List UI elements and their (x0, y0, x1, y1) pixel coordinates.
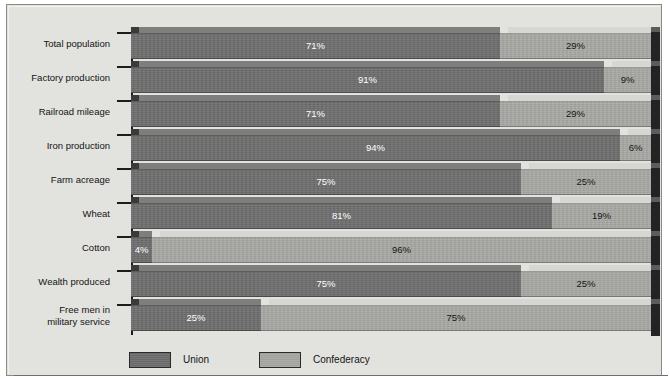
axis-tick (117, 32, 132, 34)
bar-body (131, 271, 651, 297)
axis-tick (117, 202, 132, 204)
axis-tick (117, 134, 132, 136)
category-label: Free men in military service (47, 304, 110, 327)
bar-end-cap (651, 270, 660, 302)
bar-row[interactable]: 75%25% (131, 163, 663, 191)
bar-segment-confederacy[interactable] (500, 101, 651, 127)
bar-segment-confederacy[interactable] (620, 135, 651, 161)
plot-area: Total population71%29%Factory production… (17, 13, 657, 343)
bar-segment-confederacy[interactable] (604, 67, 651, 93)
bar-body (131, 169, 651, 195)
bar-segment-union[interactable] (131, 237, 152, 263)
bar-body (131, 135, 651, 161)
bar-row[interactable]: 91%9% (131, 61, 663, 89)
bar-body (131, 237, 651, 263)
bar-segment-union[interactable] (131, 33, 500, 59)
bar-segment-union[interactable] (131, 203, 552, 229)
axis-tick (117, 304, 132, 306)
bar-segment-union[interactable] (131, 67, 604, 93)
bar-segment-confederacy[interactable] (500, 33, 651, 59)
chart-legend: UnionConfederacy (17, 349, 657, 373)
category-label: Total population (43, 38, 110, 50)
bar-row[interactable]: 71%29% (131, 95, 663, 123)
bar-body (131, 305, 651, 331)
bar-segment-union[interactable] (131, 101, 500, 127)
bar-row[interactable]: 75%25% (131, 265, 663, 293)
bar-body (131, 101, 651, 127)
bar-end-cap (651, 168, 660, 200)
legend-swatch-union (129, 352, 171, 368)
bar-segment-union[interactable] (131, 271, 521, 297)
bar-segment-confederacy[interactable] (152, 237, 651, 263)
bar-end-cap (651, 66, 660, 98)
chart-screenshot: Total population71%29%Factory production… (0, 0, 670, 383)
bar-segment-union[interactable] (131, 135, 620, 161)
legend-label: Confederacy (313, 349, 370, 371)
category-label: Wheat (83, 208, 110, 220)
bar-row[interactable]: 71%29% (131, 27, 663, 55)
legend-label: Union (183, 349, 209, 371)
axis-tick (117, 236, 132, 238)
bar-body (131, 33, 651, 59)
bar-row[interactable]: 4%96% (131, 231, 663, 259)
bar-segment-union[interactable] (131, 305, 261, 331)
bar-end-cap (651, 100, 660, 132)
bar-row[interactable]: 25%75% (131, 299, 663, 327)
axis-tick (117, 168, 132, 170)
bar-row[interactable]: 94%6% (131, 129, 663, 157)
bar-end-cap (651, 236, 660, 268)
bar-row[interactable]: 81%19% (131, 197, 663, 225)
bar-end-cap (651, 202, 660, 234)
bar-end-cap (651, 32, 660, 64)
bar-body (131, 67, 651, 93)
axis-tick (117, 100, 132, 102)
bar-segment-confederacy[interactable] (552, 203, 651, 229)
bar-end-cap (651, 304, 660, 336)
bar-segment-confederacy[interactable] (521, 169, 651, 195)
category-label: Farm acreage (51, 174, 110, 186)
bar-segment-confederacy[interactable] (521, 271, 651, 297)
bar-segment-union[interactable] (131, 169, 521, 195)
category-label: Factory production (31, 72, 110, 84)
category-label: Railroad mileage (39, 106, 110, 118)
category-label: Iron production (47, 140, 110, 152)
axis-tick (117, 66, 132, 68)
bar-body (131, 203, 651, 229)
bar-end-cap (651, 134, 660, 166)
figure-base-rule (14, 375, 668, 376)
category-label: Wealth produced (38, 276, 110, 288)
axis-tick (117, 270, 132, 272)
bar-segment-confederacy[interactable] (261, 305, 651, 331)
figure-plate: Total population71%29%Factory production… (6, 4, 662, 376)
legend-swatch-confederacy (259, 352, 301, 368)
category-label: Cotton (82, 242, 110, 254)
